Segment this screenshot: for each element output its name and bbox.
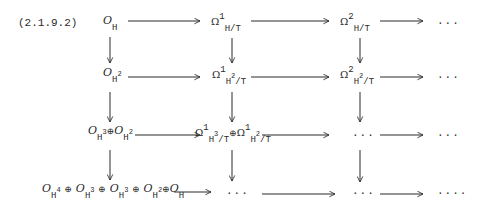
arrows-layer — [0, 0, 481, 222]
